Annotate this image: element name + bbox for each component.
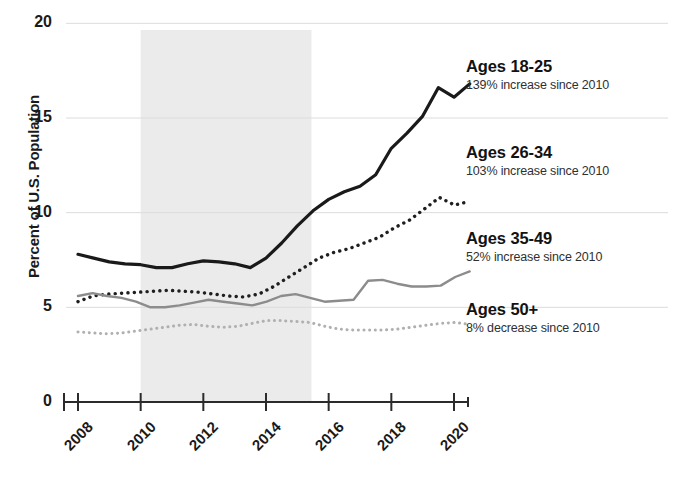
y-tick-label-10: 10 [20,203,52,221]
legend-entry-2: Ages 26-34103% increase since 2010 [466,143,609,178]
y-tick-label-15: 15 [20,108,52,126]
y-tick-label-20: 20 [20,13,52,31]
chart-root: Percent of U.S. Population 20151050 2008… [0,0,673,479]
legend-entry-4: Ages 50+8% decrease since 2010 [466,300,600,335]
legend-annotation: 103% increase since 2010 [466,164,609,178]
y-tick-label-5: 5 [20,297,52,315]
legend-annotation: 52% increase since 2010 [466,250,602,264]
legend-title: Ages 18-25 [466,57,609,76]
legend-title: Ages 50+ [466,300,600,319]
legend-annotation: 8% decrease since 2010 [466,321,600,335]
recession-band [141,30,312,402]
legend-entry-1: Ages 18-25139% increase since 2010 [466,57,609,92]
shaded-region [141,30,312,402]
legend-annotation: 139% increase since 2010 [466,78,609,92]
legend-entry-3: Ages 35-4952% increase since 2010 [466,229,602,264]
y-tick-label-0: 0 [20,392,52,410]
chart-legend: Ages 18-25139% increase since 2010Ages 2… [466,0,673,400]
legend-title: Ages 26-34 [466,143,609,162]
legend-title: Ages 35-49 [466,229,602,248]
